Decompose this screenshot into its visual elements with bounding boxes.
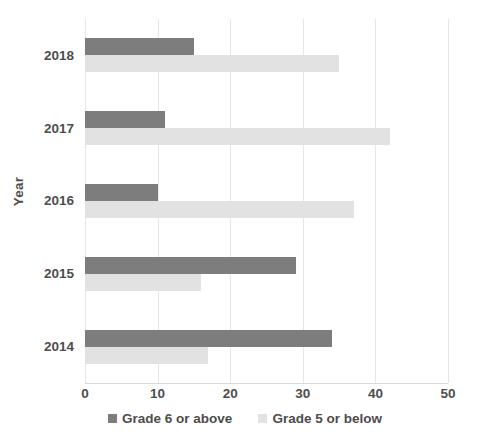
gridline-50 [448,19,449,383]
y-tick-label-2014: 2014 [30,310,80,383]
y-tick-label-2018: 2018 [30,19,80,92]
bar-group-2014 [85,310,448,383]
bar-group-2018 [85,19,448,92]
y-tick-label-2015: 2015 [30,237,80,310]
bar-2015-series-2 [85,274,201,291]
legend-label: Grade 5 or below [272,411,382,426]
x-tick-label: 0 [81,386,89,401]
y-axis-title: Year [6,0,32,383]
x-tick-label: 20 [223,386,238,401]
x-tick-label: 10 [150,386,165,401]
legend-item-1[interactable]: Grade 6 or above [108,411,232,426]
x-tick-label: 40 [368,386,383,401]
y-axis-title-label: Year [12,177,27,206]
bar-group-2016 [85,165,448,238]
bar-2014-series-1 [85,330,332,347]
legend-swatch-icon [258,414,267,423]
y-tick-label-2016: 2016 [30,165,80,238]
chart-legend: Grade 6 or aboveGrade 5 or below [0,406,490,430]
legend-label: Grade 6 or above [122,411,232,426]
y-axis-tick-labels: 20182017201620152014 [30,19,80,383]
bar-2017-series-1 [85,111,165,128]
bar-2015-series-1 [85,257,296,274]
x-axis-tick-labels: 01020304050 [85,386,448,404]
bar-chart: Year 20182017201620152014 01020304050 Gr… [0,0,490,443]
bar-2016-series-2 [85,201,354,218]
legend-swatch-icon [108,414,117,423]
x-axis-line [85,383,448,384]
bar-2018-series-2 [85,55,339,72]
plot-area [85,19,448,383]
bar-2014-series-2 [85,347,208,364]
bar-2016-series-1 [85,184,158,201]
y-tick-label-2017: 2017 [30,92,80,165]
bar-2018-series-1 [85,38,194,55]
bar-2017-series-2 [85,128,390,145]
x-tick-label: 30 [295,386,310,401]
bar-group-2015 [85,237,448,310]
legend-item-2[interactable]: Grade 5 or below [258,411,382,426]
bar-group-2017 [85,92,448,165]
bar-groups [85,19,448,383]
x-tick-label: 50 [440,386,455,401]
